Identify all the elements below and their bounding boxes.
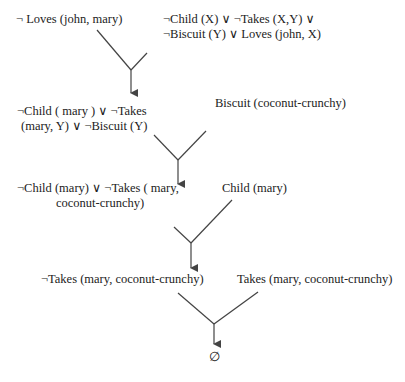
clause-rule: ¬Child (X) ∨ ¬Takes (X,Y) ∨ ¬Biscuit (Y)… (163, 12, 321, 42)
clause-negated-goal: ¬ Loves (john, mary) (16, 12, 122, 27)
clause-takes-fact: Takes (mary, coconut-crunchy) (237, 272, 393, 287)
clause-biscuit-fact: Biscuit (coconut-crunchy) (215, 96, 346, 111)
empty-clause: ∅ (209, 350, 220, 365)
clause-child-fact: Child (mary) (222, 181, 287, 196)
clause-resolvent-1: ¬Child ( mary ) ∨ ¬Takes (mary, Y) ∨ ¬Bi… (17, 104, 147, 134)
clause-resolvent-2: ¬Child (mary) ∨ ¬Takes ( mary, coconut-c… (17, 181, 179, 211)
clause-resolvent-3: ¬Takes (mary, coconut-crunchy) (41, 272, 204, 287)
